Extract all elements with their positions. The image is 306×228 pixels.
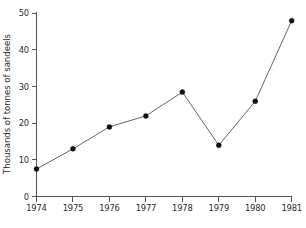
x-tick-label-1981: 1981 [281, 203, 302, 213]
data-point-1975 [70, 146, 75, 151]
y-tick-label-20: 20 [19, 118, 29, 128]
x-tick-label-1975: 1975 [63, 203, 84, 213]
x-axis-ticks [37, 197, 292, 202]
y-tick-label-10: 10 [19, 155, 29, 165]
data-point-1977 [143, 113, 148, 118]
series-markers [34, 18, 294, 171]
series-line-sandeels [37, 21, 292, 169]
x-tick-label-1979: 1979 [209, 203, 230, 213]
x-tick-label-1976: 1976 [99, 203, 120, 213]
x-tick-label-1977: 1977 [136, 203, 157, 213]
data-point-1974 [34, 167, 39, 172]
data-point-1981 [289, 18, 294, 23]
chart-container: 0 10 20 30 40 50 Thousands of tonnes of … [0, 0, 306, 228]
y-axis-tick-labels: 0 10 20 30 40 50 [19, 8, 29, 201]
x-axis-tick-labels: 1974 1975 1976 1977 1978 1979 1980 1981 [26, 203, 302, 213]
line-chart: 0 10 20 30 40 50 Thousands of tonnes of … [0, 0, 306, 228]
x-tick-label-1978: 1978 [172, 203, 193, 213]
data-point-1979 [216, 143, 221, 148]
data-point-1976 [107, 124, 112, 129]
y-tick-label-30: 30 [19, 82, 29, 92]
x-tick-label-1974: 1974 [26, 203, 47, 213]
x-tick-label-1980: 1980 [245, 203, 266, 213]
y-tick-label-50: 50 [19, 8, 29, 18]
data-point-1980 [253, 99, 258, 104]
y-axis-title: Thousands of tonnes of sandeels [2, 34, 12, 175]
y-tick-label-40: 40 [19, 45, 29, 55]
data-point-1978 [180, 90, 185, 95]
y-tick-label-0: 0 [24, 192, 29, 202]
